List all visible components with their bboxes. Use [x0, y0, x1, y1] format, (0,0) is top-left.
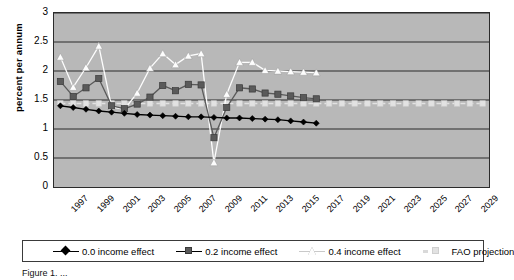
legend-label: 0.0 income effect — [82, 246, 154, 257]
x-tick-label: 2009 — [223, 193, 244, 214]
x-tick-label: 2013 — [274, 193, 295, 214]
legend-marker — [308, 247, 316, 255]
x-tick-label: 2019 — [351, 193, 372, 214]
triangle-icon — [299, 245, 325, 257]
diamond-icon — [53, 245, 79, 257]
x-tick-label: 2015 — [300, 193, 321, 214]
x-tick-label: 2021 — [376, 193, 397, 214]
legend-item-0: 0.0 income effect — [53, 245, 154, 257]
dashed-square-icon — [423, 245, 449, 257]
square-icon — [176, 245, 202, 257]
x-tick-label: 2007 — [197, 193, 218, 214]
legend-marker — [432, 247, 439, 254]
x-tick-label: 2023 — [402, 193, 423, 214]
x-tick-label: 2027 — [453, 193, 474, 214]
x-tick-label: 1999 — [95, 193, 116, 214]
figure-caption: Figure 1. ... — [22, 268, 482, 279]
legend-label: FAO projection — [452, 246, 514, 257]
x-tick-label: 2003 — [146, 193, 167, 214]
legend-item-2: 0.4 income effect — [299, 245, 400, 257]
x-tick-label: 2005 — [172, 193, 193, 214]
x-tick-label: 2011 — [248, 193, 269, 214]
chart-legend: 0.0 income effect0.2 income effect0.4 in… — [22, 240, 484, 262]
x-tick-label: 2025 — [427, 193, 448, 214]
x-tick-label: 2001 — [120, 193, 141, 214]
legend-label: 0.2 income effect — [205, 246, 277, 257]
x-tick-label: 1997 — [69, 193, 90, 214]
legend-marker — [61, 246, 71, 256]
legend-item-1: 0.2 income effect — [176, 245, 277, 257]
legend-label: 0.4 income effect — [328, 246, 400, 257]
legend-item-3: FAO projection — [423, 245, 514, 257]
x-tick-label: 2029 — [479, 193, 500, 214]
legend-marker — [185, 247, 192, 254]
x-tick-label: 2017 — [325, 193, 346, 214]
